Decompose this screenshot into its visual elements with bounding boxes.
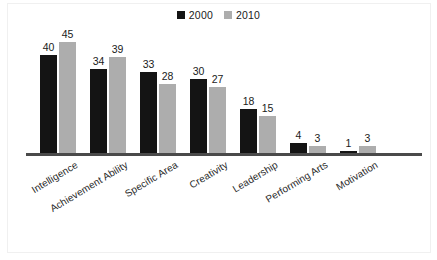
plot-area: 404534393328302718154313 (26, 30, 422, 156)
legend-item-2000[interactable]: 2000 (177, 10, 213, 21)
bar-2010-creativity[interactable]: 27 (209, 87, 226, 153)
bar-2000-creativity[interactable]: 30 (190, 79, 207, 153)
bar-value-label: 28 (162, 71, 174, 82)
bar-group: 3439 (90, 30, 126, 153)
chart-legend: 2000 2010 (0, 10, 437, 21)
bar-value-label: 18 (243, 96, 255, 107)
bar-2000-specific-area[interactable]: 33 (140, 72, 157, 153)
bar-2000-performing-arts[interactable]: 4 (290, 143, 307, 153)
legend-swatch-2000-icon (177, 11, 185, 19)
x-axis-tick-labels: IntelligenceAchievement AbilitySpecific … (26, 159, 422, 249)
bar-2000-intelligence[interactable]: 40 (40, 55, 57, 153)
bar-value-label: 34 (93, 56, 105, 67)
x-axis-line (26, 153, 422, 156)
bar-2000-leadership[interactable]: 18 (240, 109, 257, 153)
bar-value-label: 3 (365, 133, 371, 144)
bar-chart: 2000 2010 404534393328302718154313 Intel… (0, 0, 437, 260)
bar-group: 13 (340, 30, 376, 153)
bar-value-label: 45 (62, 29, 74, 40)
bar-value-label: 27 (212, 74, 224, 85)
bar-2000-achievement-ability[interactable]: 34 (90, 69, 107, 153)
bar-value-label: 39 (112, 44, 124, 55)
bar-group: 3328 (140, 30, 176, 153)
bar-2010-motivation[interactable]: 3 (359, 146, 376, 153)
x-tick-label-motivation: Motivation (334, 159, 380, 192)
bar-value-label: 15 (262, 103, 274, 114)
x-tick-label-creativity: Creativity (187, 159, 229, 190)
legend-item-2010[interactable]: 2010 (224, 10, 260, 21)
bar-2010-achievement-ability[interactable]: 39 (109, 57, 126, 153)
bar-group: 43 (290, 30, 326, 153)
x-tick-label-specific-area: Specific Area (123, 159, 180, 199)
bar-value-label: 40 (43, 42, 55, 53)
bar-value-label: 33 (143, 59, 155, 70)
bar-2010-leadership[interactable]: 15 (259, 116, 276, 153)
legend-swatch-2010-icon (224, 11, 232, 19)
legend-label-2010: 2010 (236, 10, 260, 21)
bar-2010-intelligence[interactable]: 45 (59, 42, 76, 153)
bar-value-label: 30 (193, 66, 205, 77)
bar-2010-performing-arts[interactable]: 3 (309, 146, 326, 153)
bar-group: 1815 (240, 30, 276, 153)
bar-group: 3027 (190, 30, 226, 153)
legend-label-2000: 2000 (189, 10, 213, 21)
bar-value-label: 3 (315, 133, 321, 144)
bar-value-label: 1 (346, 138, 352, 149)
bar-value-label: 4 (296, 130, 302, 141)
bar-group: 4045 (40, 30, 76, 153)
bar-2010-specific-area[interactable]: 28 (159, 84, 176, 153)
